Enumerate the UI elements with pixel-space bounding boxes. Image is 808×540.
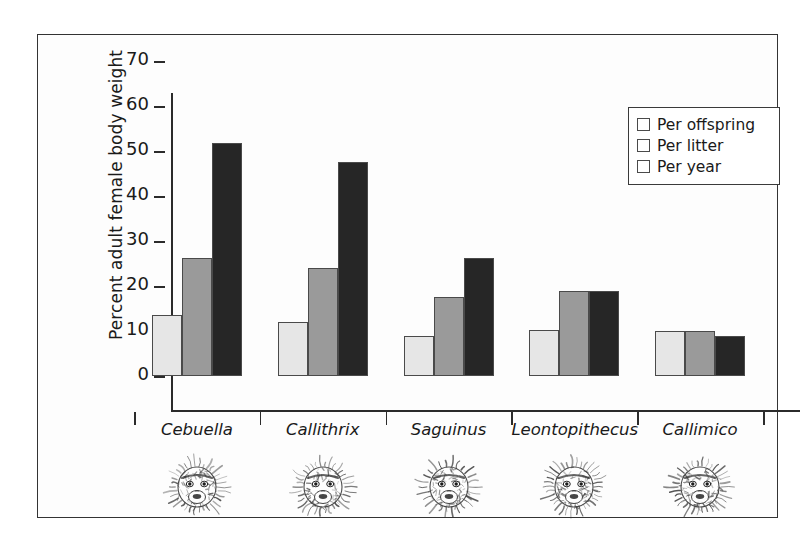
x-axis-category-label: Callimico (637, 420, 763, 439)
y-axis-tick-label: 40 (126, 183, 149, 204)
dark-gray-swatch (637, 160, 650, 173)
bar (589, 291, 619, 377)
bar-group-callithrix (278, 61, 368, 376)
x-axis-category-label: Leontopithecus (511, 420, 637, 439)
legend-item: Per year (637, 156, 771, 177)
medium-gray-swatch (637, 139, 650, 152)
bar (212, 143, 242, 376)
bar (529, 330, 559, 376)
y-axis-tick-label: 50 (126, 138, 149, 159)
bar (308, 268, 338, 376)
tamarin-face-sketch (411, 451, 487, 525)
marmoset-face-sketch (285, 451, 361, 525)
x-axis-category-label: Saguinus (386, 420, 512, 439)
x-axis-category-label: Callithrix (260, 420, 386, 439)
x-axis-category-label: Cebuella (134, 420, 260, 439)
bar (338, 162, 368, 376)
bar (685, 331, 715, 376)
bar-group-cebuella (152, 61, 242, 376)
y-axis-tick-label: 20 (126, 273, 149, 294)
lion-tamarin-face-sketch (536, 451, 612, 525)
y-axis-tick-label: 10 (126, 318, 149, 339)
y-axis-title: Percent adult female body weight (106, 45, 126, 345)
bar (434, 297, 464, 376)
legend-item-label: Per litter (657, 137, 723, 155)
y-axis-tick-label: 0 (138, 363, 149, 384)
legend-item: Per offspring (637, 114, 771, 135)
bar-group-saguinus (404, 61, 494, 376)
figure-container: Percent adult female body weight 7060504… (0, 0, 808, 540)
legend-item-label: Per year (657, 158, 721, 176)
legend: Per offspring Per litter Per year (628, 107, 780, 185)
x-axis-separator (763, 412, 765, 425)
bar (464, 258, 494, 376)
bar (655, 331, 685, 376)
bar (715, 336, 745, 377)
legend-item: Per litter (637, 135, 771, 156)
y-axis-tick-label: 60 (126, 93, 149, 114)
bar (559, 291, 589, 377)
bar (152, 315, 182, 376)
bar (404, 336, 434, 377)
legend-item-label: Per offspring (657, 116, 755, 134)
y-axis-tick-label: 30 (126, 228, 149, 249)
light-gray-swatch (637, 118, 650, 131)
y-axis-tick-label: 70 (126, 48, 149, 69)
figure-frame: Percent adult female body weight 7060504… (37, 34, 778, 518)
y-axis-tick-mark (154, 376, 165, 378)
x-axis-line (171, 410, 800, 412)
bar-group-leontopithecus (529, 61, 619, 376)
bar (278, 322, 308, 376)
bar (182, 258, 212, 376)
marmoset-face-sketch (159, 451, 235, 525)
goeldis-monkey-face-sketch (662, 451, 738, 525)
